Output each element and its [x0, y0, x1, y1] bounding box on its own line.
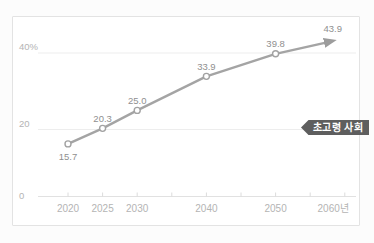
data-point-marker-2025 [100, 125, 106, 131]
badge-label: 초고령 사회 [313, 122, 364, 133]
super-aged-society-badge: 초고령 사회 [301, 120, 369, 135]
data-point-value-2020: 15.7 [59, 151, 78, 162]
x-axis-label-2020: 2020 [57, 203, 80, 214]
y-axis-label-40: 40% [19, 41, 39, 52]
x-axis-label-2050: 2050 [264, 203, 287, 214]
x-axis-label-2040: 2040 [195, 203, 218, 214]
data-point-marker-2030 [134, 107, 140, 113]
data-point-value-2040: 33.9 [197, 61, 216, 72]
data-series-line [68, 42, 327, 144]
data-point-value-2050: 39.8 [266, 38, 285, 49]
data-point-marker-2020 [65, 141, 71, 147]
data-point-marker-2050 [273, 51, 279, 57]
x-axis-label-2030: 2030 [126, 203, 149, 214]
data-point-marker-2040 [203, 73, 209, 79]
x-axis-label-2025: 2025 [91, 203, 114, 214]
data-point-value-2030: 25.0 [128, 95, 147, 106]
data-point-value-2025: 20.3 [93, 113, 112, 124]
data-point-value-2060: 43.9 [324, 23, 343, 34]
y-axis-label-0: 0 [19, 190, 24, 201]
x-axis-label-2060: 2060년 [318, 203, 349, 214]
y-axis-label-20: 20 [19, 118, 30, 129]
